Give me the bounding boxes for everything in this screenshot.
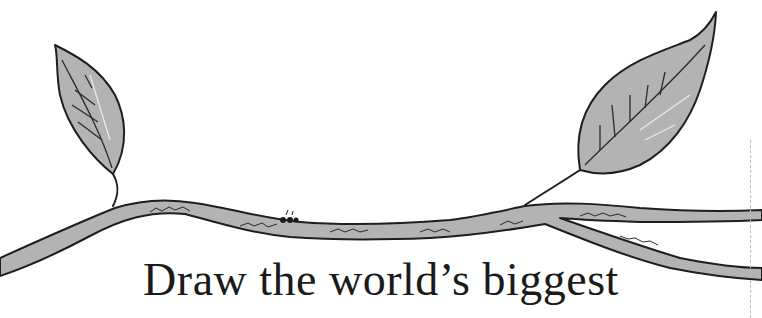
page-headline: Draw the world’s biggest — [0, 257, 762, 303]
right-leaf-stem — [525, 170, 580, 205]
left-leaf-stem — [113, 174, 118, 206]
ant-icon — [280, 210, 299, 223]
left-leaf — [55, 45, 124, 174]
